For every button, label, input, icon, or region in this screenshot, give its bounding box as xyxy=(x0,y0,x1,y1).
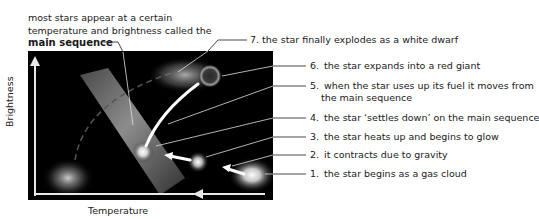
stage-2-text: it contracts due to gravity xyxy=(324,149,448,160)
stage-4-label: 4. the star ‘settles down’ on the main s… xyxy=(310,112,539,124)
x-axis-arrowhead xyxy=(193,189,203,199)
stage-5-text-cont: the main sequence xyxy=(310,92,534,104)
stage-1-number: 1. xyxy=(310,168,321,180)
initial-gas-cloud xyxy=(228,157,276,193)
stage-5-label: 5. when the star uses up its fuel it mov… xyxy=(310,80,534,104)
stage-4-number: 4. xyxy=(310,112,321,124)
stage-3-label: 3. the star heats up and begins to glow xyxy=(310,131,499,143)
x-axis-label: Temperature xyxy=(88,205,148,216)
y-axis-arrowhead xyxy=(30,56,40,66)
stage-5-number: 5. xyxy=(310,80,321,92)
stage-3-text: the star heats up and begins to glow xyxy=(324,131,499,142)
stage-3-number: 3. xyxy=(310,131,321,143)
main-sequence-star xyxy=(132,141,154,163)
stage-2-number: 2. xyxy=(310,149,321,161)
stage-1-label: 1. the star begins as a gas cloud xyxy=(310,168,467,180)
stage-7-text: the star finally explodes as a white dwa… xyxy=(262,34,458,45)
stage-5-text: when the star uses up its fuel it moves … xyxy=(324,80,534,91)
stage-7-number: 7. xyxy=(250,34,259,45)
gas-cloud-left xyxy=(42,158,94,198)
stage-2-label: 2. it contracts due to gravity xyxy=(310,149,448,161)
red-giant xyxy=(198,64,222,88)
y-axis-label: Brightness xyxy=(4,76,15,127)
stage-6-number: 6. xyxy=(310,60,321,72)
stage-4-text: the star ‘settles down’ on the main sequ… xyxy=(324,112,539,123)
protostar xyxy=(187,151,209,173)
stage-7-label: 7. the star finally explodes as a white … xyxy=(250,34,458,46)
stage-6-text: the star expands into a red giant xyxy=(324,60,480,71)
stage-1-text: the star begins as a gas cloud xyxy=(324,168,467,179)
stage-6-label: 6. the star expands into a red giant xyxy=(310,60,480,72)
